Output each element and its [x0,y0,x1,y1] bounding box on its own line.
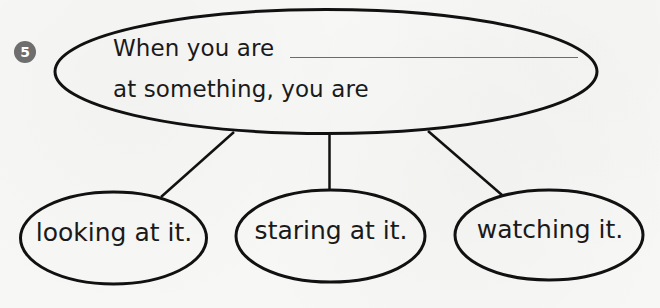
word-web-diagram: 5 When you are at something, you are loo… [0,0,660,308]
answer-watching: watching it. [477,217,623,242]
question-number-badge: 5 [14,41,36,63]
diagram-shapes [0,0,660,308]
main-ellipse [55,10,597,134]
prompt-line-1: When you are [113,37,274,60]
connector-left [161,132,234,197]
answer-staring: staring at it. [255,218,408,243]
fill-in-blank-line[interactable] [290,57,578,58]
prompt-line-2: at something, you are [113,78,369,101]
connector-right [428,131,502,195]
answer-looking: looking at it. [36,220,192,245]
